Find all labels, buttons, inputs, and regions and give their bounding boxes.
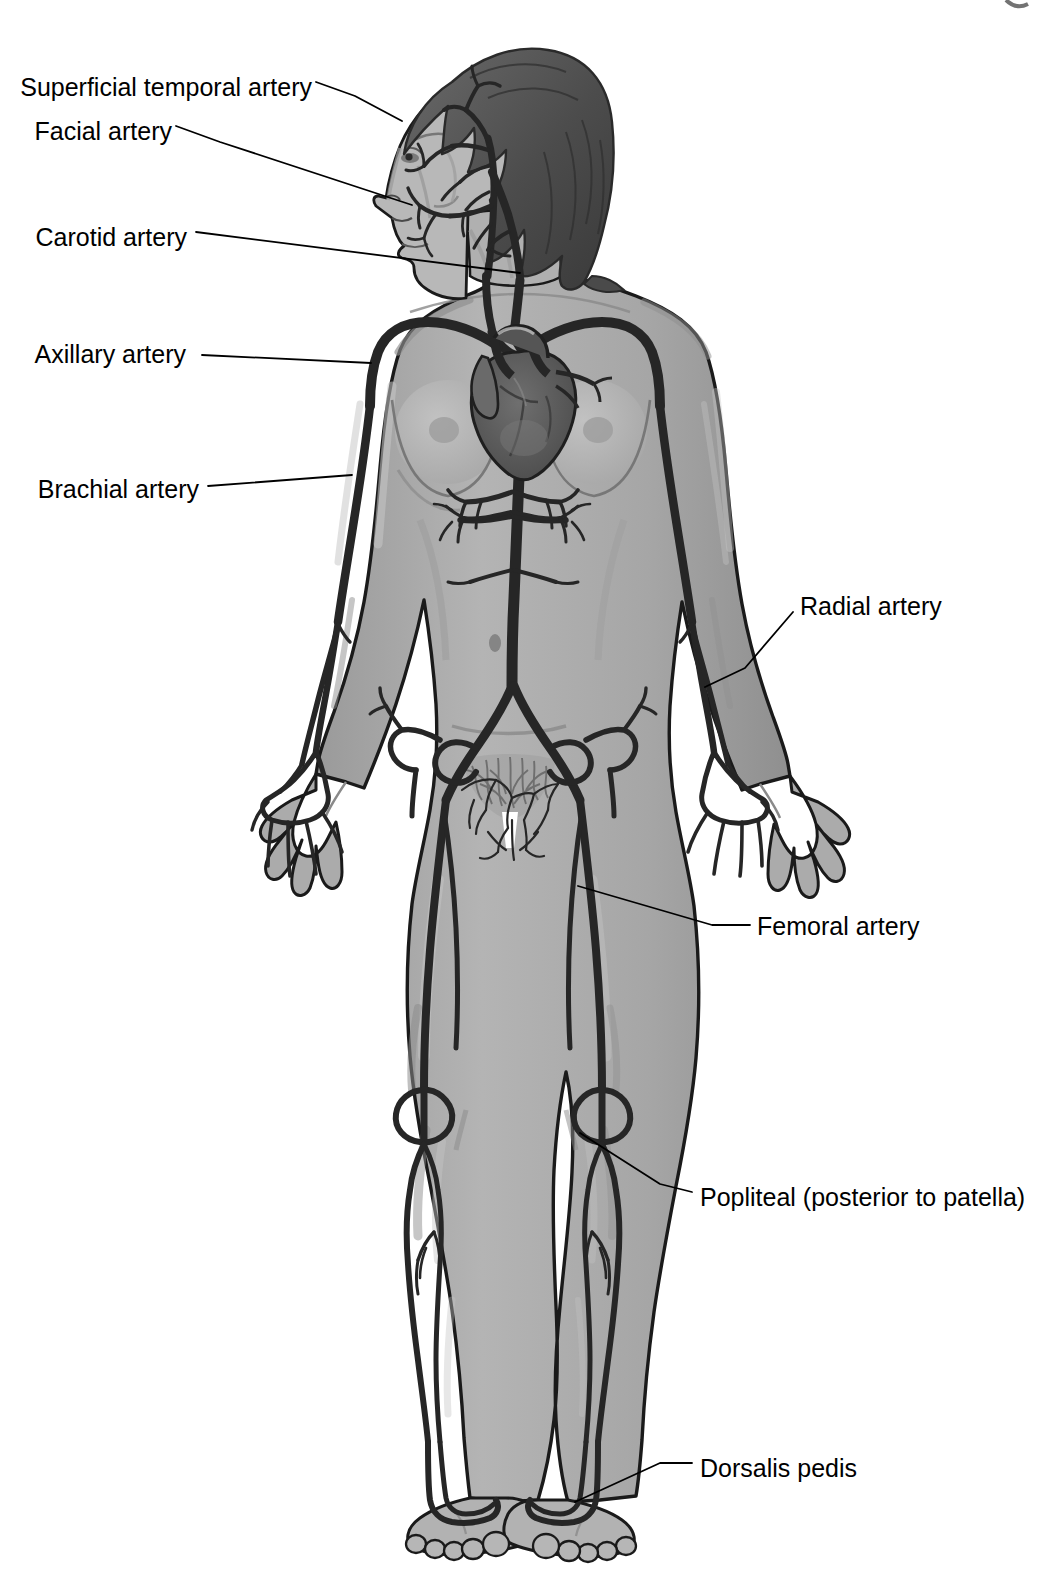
label-dorsalis-pedis: Dorsalis pedis: [700, 1453, 857, 1483]
leader-brachial-artery: [208, 475, 352, 486]
leader-superficial-temporal-artery: [316, 82, 402, 121]
label-radial-artery: Radial artery: [800, 591, 942, 621]
label-axillary-artery: Axillary artery: [35, 339, 186, 369]
label-facial-artery: Facial artery: [34, 116, 172, 146]
label-popliteal-artery: Popliteal (posterior to patella): [700, 1182, 1025, 1212]
label-carotid-artery: Carotid artery: [36, 222, 187, 252]
leader-axillary-artery: [202, 355, 371, 363]
body-silhouette: [252, 49, 850, 1562]
leader-facial-artery: [176, 126, 412, 205]
artery-diagram-figure: Superficial temporal artery Facial arter…: [0, 0, 1040, 1588]
label-superficial-temporal-artery: Superficial temporal artery: [20, 72, 312, 102]
label-brachial-artery: Brachial artery: [38, 474, 199, 504]
label-femoral-artery: Femoral artery: [757, 911, 920, 941]
